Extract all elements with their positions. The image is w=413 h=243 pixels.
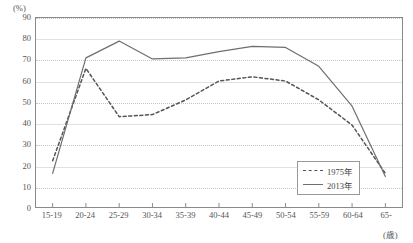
legend-item-1975: 1975年 <box>303 165 353 177</box>
y-tick-20: 20 <box>7 161 31 171</box>
y-tick-0: 0 <box>7 203 31 213</box>
y-tick-40: 40 <box>7 118 31 128</box>
x-tick-20-24: 20-24 <box>75 210 95 220</box>
y-tick-70: 70 <box>7 54 31 64</box>
x-tick-60-64: 60-64 <box>343 210 363 220</box>
y-tick-30: 30 <box>7 139 31 149</box>
x-tick-50-54: 50-54 <box>276 210 296 220</box>
x-tick-65-: 65- <box>381 210 392 220</box>
legend-label-2013: 2013年 <box>327 179 353 191</box>
x-tick-25-29: 25-29 <box>109 210 129 220</box>
y-tick-90: 90 <box>7 12 31 22</box>
y-tick-60: 60 <box>7 76 31 86</box>
legend-label-1975: 1975年 <box>327 165 353 177</box>
x-tick-40-44: 40-44 <box>209 210 229 220</box>
y-tick-10: 10 <box>7 182 31 192</box>
y-tick-50: 50 <box>7 97 31 107</box>
chart-legend: 1975年 2013年 <box>297 161 360 195</box>
x-tick-35-39: 35-39 <box>176 210 196 220</box>
line-chart: (%) 0102030405060708090 15-1920-2425-293… <box>0 0 413 243</box>
x-axis-tick-labels: 15-1920-2425-2930-3435-3940-4445-4950-54… <box>35 210 403 226</box>
x-tick-30-34: 30-34 <box>142 210 162 220</box>
x-axis-unit-label: (歳) <box>383 228 398 240</box>
y-axis-tick-labels: 0102030405060708090 <box>0 17 33 208</box>
x-tick-15-19: 15-19 <box>42 210 62 220</box>
legend-solid-line-icon <box>303 184 323 185</box>
legend-item-2013: 2013年 <box>303 179 353 191</box>
x-tick-55-59: 55-59 <box>309 210 329 220</box>
y-tick-80: 80 <box>7 33 31 43</box>
x-tick-45-49: 45-49 <box>243 210 263 220</box>
legend-dashed-line-icon <box>303 170 323 171</box>
